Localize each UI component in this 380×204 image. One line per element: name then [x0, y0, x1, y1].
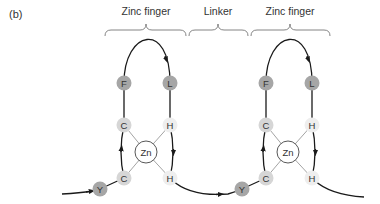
- residue-f: F: [117, 76, 132, 91]
- zinc-label: Zn: [282, 147, 293, 158]
- zinc-finger-1: FLCHCHYZn: [93, 76, 178, 197]
- residue-h: H: [163, 118, 178, 133]
- segment-brace-linker: Linker: [189, 5, 248, 36]
- residue-label: L: [309, 78, 314, 89]
- backbone-c-terminus: [314, 180, 364, 197]
- residue-label: H: [167, 120, 174, 131]
- residue-c: C: [117, 118, 132, 133]
- residue-c: C: [117, 171, 132, 186]
- segment-label-linker: Linker: [204, 5, 233, 17]
- residue-c: C: [259, 171, 274, 186]
- residue-label: C: [121, 173, 128, 184]
- residue-label: C: [121, 120, 128, 131]
- residue-h: H: [305, 171, 320, 186]
- residue-y: Y: [235, 182, 250, 197]
- residue-label: C: [263, 120, 270, 131]
- residue-l: L: [305, 76, 320, 91]
- residue-label: F: [121, 78, 127, 89]
- zinc-label: Zn: [140, 147, 151, 158]
- residue-label: C: [263, 173, 270, 184]
- residue-label: H: [309, 173, 316, 184]
- residue-label: H: [167, 173, 174, 184]
- residue-label: Y: [239, 184, 246, 195]
- residue-label: L: [167, 78, 172, 89]
- residue-c: C: [259, 118, 274, 133]
- segment-brace-zinc-finger-2: Zinc finger: [251, 5, 330, 36]
- segment-label-zinc-finger-1: Zinc finger: [121, 5, 171, 17]
- panel-label: (b): [9, 8, 22, 20]
- zinc-finger-diagram: (b) Zinc finger Linker Zinc finger: [0, 0, 380, 204]
- residue-f: F: [259, 76, 274, 91]
- residue-label: F: [263, 78, 269, 89]
- residue-l: L: [163, 76, 178, 91]
- residue-label: Y: [97, 184, 104, 195]
- segment-label-zinc-finger-2: Zinc finger: [265, 5, 315, 17]
- backbone: [62, 39, 364, 197]
- residue-h: H: [163, 171, 178, 186]
- residue-h: H: [305, 118, 320, 133]
- zinc-finger-2: FLCHCHYZn: [235, 76, 320, 197]
- residue-label: H: [309, 120, 316, 131]
- zinc-ion: Zn: [277, 141, 299, 163]
- zinc-ion: Zn: [135, 141, 157, 163]
- segment-brace-zinc-finger-1: Zinc finger: [105, 5, 186, 36]
- residue-y: Y: [93, 182, 108, 197]
